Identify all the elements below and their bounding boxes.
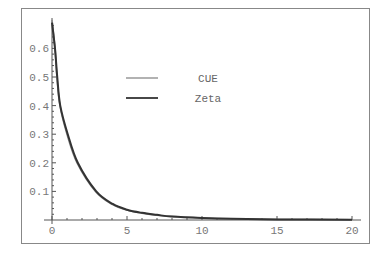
- y-tick-label: 0.6: [29, 43, 49, 55]
- x-tick-label: 0: [49, 225, 56, 237]
- y-tick-label: 0.1: [29, 186, 49, 198]
- x-tick-label: 20: [345, 225, 358, 237]
- line-chart: 051015200.10.20.30.40.50.6 CUE Zeta: [0, 0, 387, 253]
- y-tick-label: 0.4: [29, 101, 49, 113]
- x-tick-label: 10: [195, 225, 208, 237]
- x-tick-label: 5: [124, 225, 131, 237]
- y-tick-label: 0.2: [29, 158, 49, 170]
- x-tick-label: 15: [270, 225, 283, 237]
- plot-frame: [22, 9, 370, 244]
- y-tick-label: 0.5: [29, 72, 49, 84]
- legend-label-zeta: Zeta: [195, 93, 222, 105]
- y-tick-label: 0.3: [29, 129, 49, 141]
- legend-label-cue: CUE: [198, 73, 218, 85]
